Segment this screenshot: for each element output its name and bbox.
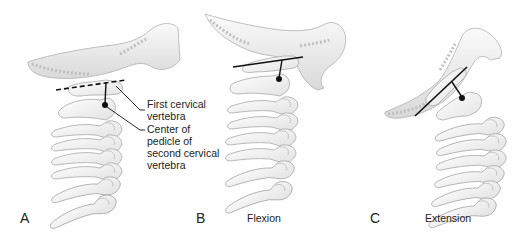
- vertebra-c3-b: [228, 97, 299, 115]
- panel-caption-flexion: Flexion: [247, 212, 281, 224]
- panel-label-b: B: [196, 210, 205, 226]
- diagram-canvas: [0, 0, 531, 233]
- panel-caption-extension: Extension: [425, 212, 471, 224]
- skull-base-c: [385, 28, 502, 118]
- panel-b: [205, 14, 346, 215]
- vertebra-c4-b: [228, 113, 299, 131]
- vertebra-c6-b: [226, 145, 297, 163]
- skull-base-a: [28, 24, 180, 79]
- panel-c: [385, 28, 507, 230]
- callout-center-of-pedicle: Center of pedicle of second cervical ver…: [147, 123, 219, 171]
- callout-first-cervical-vertebra: First cervical vertebra: [147, 98, 206, 122]
- panel-label-c: C: [370, 210, 380, 226]
- pedicle-center-dot-c: [459, 95, 465, 101]
- pedicle-center-dot-b: [276, 76, 282, 82]
- perpendicular-line-a: [105, 82, 106, 104]
- second-cervical-vertebra-a: [59, 98, 116, 120]
- cervical-spine-diagram: First cervical vertebra Center of pedicl…: [0, 0, 531, 233]
- panel-label-a: A: [20, 210, 29, 226]
- vertebra-c5-b: [226, 129, 297, 147]
